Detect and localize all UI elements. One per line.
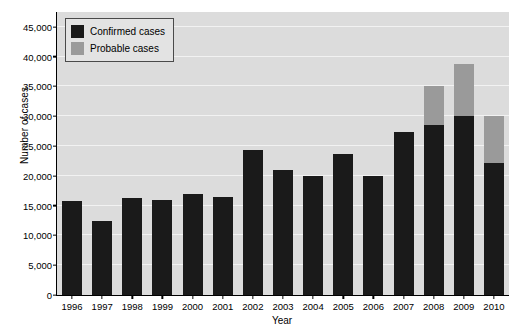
bar-chart-figure: Number of cases Year 05,00010,00015,0002… [0,0,532,333]
x-axis-tick-label: 2009 [453,301,474,312]
y-axis-tick-mark [53,86,57,87]
x-axis-tick-mark [192,295,193,299]
y-axis-tick-label: 10,000 [23,230,52,241]
bar-group[interactable]: 2004 [303,12,323,295]
bar-group[interactable]: 2008 [424,12,444,295]
x-axis-tick-label: 2004 [303,301,324,312]
x-axis-tick-label: 2007 [393,301,414,312]
bar-segment-confirmed[interactable] [484,163,504,295]
bar-group[interactable]: 2005 [333,12,353,295]
bar-segment-confirmed[interactable] [92,221,112,295]
x-axis-tick-label: 2003 [272,301,293,312]
x-axis-tick-label: 2005 [333,301,354,312]
x-axis-tick-mark [132,295,133,299]
x-axis-tick-mark [71,295,72,299]
bar-segment-confirmed[interactable] [152,200,172,295]
plot-area: 05,00010,00015,00020,00025,00030,00035,0… [56,12,509,296]
y-axis-tick-mark [53,294,57,295]
y-axis-tick-mark [53,235,57,236]
y-axis-tick-label: 5,000 [28,260,52,271]
x-axis-tick-mark [252,295,253,299]
x-axis-tick-label: 2010 [483,301,504,312]
y-axis-tick-mark [53,205,57,206]
bar-segment-confirmed[interactable] [454,116,474,295]
bar-segment-confirmed[interactable] [333,154,353,295]
x-axis-tick-label: 1998 [122,301,143,312]
bar-segment-probable[interactable] [424,86,444,125]
x-axis-tick-mark [433,295,434,299]
x-axis-tick-mark [222,295,223,299]
x-axis-tick-label: 1999 [152,301,173,312]
bar-segment-confirmed[interactable] [62,201,82,295]
bar-group[interactable]: 2009 [454,12,474,295]
x-axis-tick-mark [463,295,464,299]
bar-segment-confirmed[interactable] [363,176,383,295]
y-axis-tick-label: 40,000 [23,51,52,62]
bar-group[interactable]: 2007 [394,12,414,295]
x-axis-tick-label: 2000 [182,301,203,312]
bar-group[interactable]: 2006 [363,12,383,295]
x-axis-title: Year [56,315,508,326]
bar-segment-confirmed[interactable] [424,125,444,295]
x-axis-tick-mark [343,295,344,299]
x-axis-tick-mark [493,295,494,299]
y-axis-tick-mark [53,145,57,146]
bar-segment-confirmed[interactable] [394,132,414,295]
y-axis-tick-label: 30,000 [23,111,52,122]
x-axis-tick-mark [312,295,313,299]
x-axis-tick-mark [282,295,283,299]
y-axis-tick-mark [53,56,57,57]
x-axis-tick-mark [403,295,404,299]
legend-label-probable: Probable cases [90,43,159,54]
bar-segment-probable[interactable] [454,64,474,116]
bar-segment-confirmed[interactable] [273,170,293,295]
x-axis-tick-label: 2006 [363,301,384,312]
y-axis-tick-label: 35,000 [23,81,52,92]
x-axis-tick-mark [373,295,374,299]
y-axis-tick-mark [53,265,57,266]
x-axis-tick-mark [102,295,103,299]
bar-segment-probable[interactable] [484,116,504,162]
x-axis-tick-label: 2001 [212,301,233,312]
x-axis-tick-label: 1997 [92,301,113,312]
bar-segment-confirmed[interactable] [183,194,203,295]
bar-segment-confirmed[interactable] [122,198,142,295]
bar-group[interactable]: 2010 [484,12,504,295]
x-axis-tick-label: 2002 [242,301,263,312]
bar-group[interactable]: 2002 [243,12,263,295]
bar-group[interactable]: 2001 [213,12,233,295]
chart-legend: Confirmed cases Probable cases [65,18,174,62]
legend-label-confirmed: Confirmed cases [90,26,165,37]
y-axis-tick-label: 15,000 [23,200,52,211]
bar-segment-confirmed[interactable] [303,176,323,295]
bar-group[interactable]: 2003 [273,12,293,295]
x-axis-tick-mark [162,295,163,299]
legend-swatch-confirmed-icon [71,25,84,38]
y-axis-tick-label: 25,000 [23,141,52,152]
legend-item-probable: Probable cases [71,40,165,57]
y-axis-tick-mark [53,116,57,117]
y-axis-tick-label: 0 [47,290,52,301]
bar-group[interactable]: 2000 [183,12,203,295]
y-axis-tick-label: 45,000 [23,21,52,32]
legend-swatch-probable-icon [71,42,84,55]
x-axis-tick-label: 2008 [423,301,444,312]
bar-segment-confirmed[interactable] [243,150,263,295]
y-axis-tick-mark [53,26,57,27]
x-axis-tick-label: 1996 [61,301,82,312]
bar-segment-confirmed[interactable] [213,197,233,295]
y-axis-tick-label: 20,000 [23,170,52,181]
legend-item-confirmed: Confirmed cases [71,23,165,40]
y-axis-tick-mark [53,175,57,176]
